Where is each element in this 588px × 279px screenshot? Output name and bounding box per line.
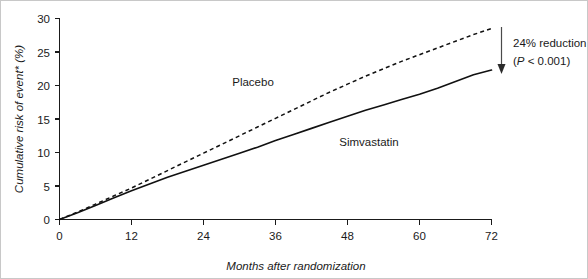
reduction-annotation-line2: (P < 0.001) (513, 55, 570, 67)
series-label-simvastatin: Simvastatin (339, 136, 398, 148)
x-tick-label-24: 24 (197, 230, 210, 242)
cumulative-risk-chart: 30 25 20 15 10 5 0 Cumulative risk of ev… (1, 1, 588, 279)
y-tick-labels: 30 25 20 15 10 5 0 (37, 13, 50, 226)
data-curves (60, 29, 492, 220)
x-tick-label-36: 36 (269, 230, 282, 242)
x-tick-label-12: 12 (125, 230, 138, 242)
figure-container: 30 25 20 15 10 5 0 Cumulative risk of ev… (0, 0, 588, 279)
x-axis-title: Months after randomization (226, 260, 365, 272)
y-axis-ticks (55, 19, 60, 220)
reduction-arrow-head-icon (498, 64, 506, 74)
y-axis-title: Cumulative risk of event* (%) (13, 45, 25, 193)
series-label-placebo: Placebo (232, 76, 274, 88)
curve-simvastatin (60, 70, 492, 219)
x-tick-label-0: 0 (56, 230, 62, 242)
reduction-annotation: 24% reduction (P < 0.001) (498, 27, 587, 74)
x-axis-ticks (60, 220, 492, 226)
y-axis: 30 25 20 15 10 5 0 Cumulative risk of ev… (13, 13, 60, 226)
pvalue-value: < 0.001) (525, 55, 571, 67)
y-tick-label-30: 30 (37, 13, 50, 25)
y-tick-label-25: 25 (37, 47, 50, 59)
curve-placebo (60, 29, 492, 220)
y-tick-label-5: 5 (44, 181, 50, 193)
x-tick-label-72: 72 (485, 230, 498, 242)
x-tick-label-48: 48 (341, 230, 354, 242)
reduction-annotation-line1: 24% reduction (513, 37, 587, 49)
y-tick-label-20: 20 (37, 80, 50, 92)
x-axis: 0 12 24 36 48 60 72 Months after randomi… (56, 220, 498, 273)
y-tick-label-10: 10 (37, 147, 50, 159)
y-tick-label-0: 0 (44, 214, 50, 226)
x-tick-label-60: 60 (413, 230, 426, 242)
y-tick-label-15: 15 (37, 114, 50, 126)
x-tick-labels: 0 12 24 36 48 60 72 (56, 230, 498, 242)
